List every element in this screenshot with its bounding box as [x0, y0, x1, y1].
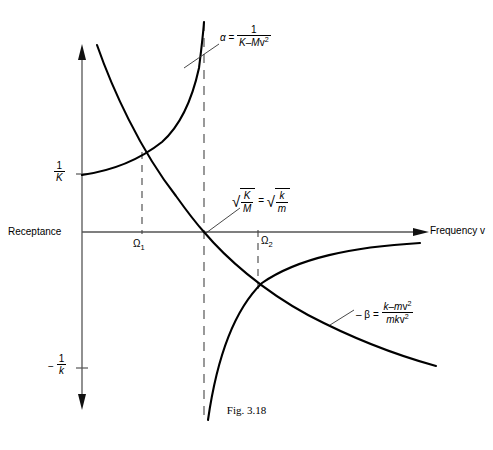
one-over-k-numerator: 1 [57, 353, 67, 366]
omega2-subscript: 2 [268, 240, 272, 249]
figure-root: α = 1 K–Mv2 √ K M = √ k m [0, 0, 493, 450]
figure-caption: Fig. 3.18 [0, 404, 493, 416]
beta-equals-sign: = [373, 309, 379, 320]
alpha-den-K: K [239, 37, 246, 48]
radical-sign-left-icon: √ [232, 194, 240, 209]
beta-fraction: k–mv2 mkv2 [382, 300, 414, 327]
y-axis-arrow-up [78, 44, 86, 60]
one-over-K-fraction: 1 K [54, 160, 65, 184]
x-marker-label-omega2: Ω2 [261, 235, 273, 249]
alpha-equals-sign: = [228, 32, 234, 43]
radical-sign-right-icon: √ [267, 194, 275, 209]
beta-leader-line [330, 310, 354, 325]
alpha-den-M: M [251, 37, 259, 48]
alpha-curve-branch-upper [82, 22, 204, 175]
asymptote-left-den: M [241, 203, 253, 215]
one-over-k-fraction: 1 k [57, 353, 67, 377]
radicand-right: k m [275, 188, 290, 214]
alpha-symbol: α [220, 32, 226, 43]
x-axis-label: Frequency v [430, 225, 485, 236]
one-over-K-denominator: K [54, 172, 65, 184]
natural-frequency-label: √ K M = √ k m [232, 188, 290, 214]
alpha-equation-label: α = 1 K–Mv2 [220, 26, 271, 51]
sqrt-K-over-M: √ K M [232, 188, 255, 214]
K-over-M-fraction: K M [241, 190, 253, 214]
beta-symbol: – β [356, 309, 370, 320]
asymptote-equals-sign: = [258, 195, 264, 206]
minus-sign: − [48, 361, 54, 372]
beta-den-exponent: 2 [405, 312, 409, 321]
beta-equation-label: – β = k–mv2 mkv2 [356, 302, 413, 329]
beta-den-mk: mk [386, 315, 399, 326]
radicand-left: K M [240, 188, 255, 214]
leader-lines-group [184, 44, 354, 325]
y-tick-label-minus-one-over-k: − 1 k [48, 355, 66, 379]
sqrt-k-over-m: √ k m [267, 188, 290, 214]
curves-group [82, 22, 436, 420]
one-over-K-numerator: 1 [54, 160, 65, 173]
alpha-curve-branch-lower [208, 243, 420, 420]
one-over-k-denominator: k [57, 365, 67, 377]
y-tick-label-one-over-K: 1 K [54, 162, 65, 186]
figure-plot-svg [0, 0, 493, 450]
y-axis-label: Receptance [8, 226, 61, 237]
k-over-m-fraction: k m [276, 190, 288, 214]
asymptote-left-num: K [241, 190, 253, 203]
alpha-denominator: K–Mv2 [237, 36, 271, 49]
asymptote-right-den: m [276, 203, 288, 215]
alpha-fraction: 1 K–Mv2 [237, 24, 271, 49]
beta-denominator: mkv2 [382, 313, 414, 326]
omega1-subscript: 1 [140, 243, 144, 252]
dashed-lines-group [142, 22, 258, 420]
asymptote-right-num: k [276, 190, 288, 203]
beta-numerator: k–mv2 [382, 300, 414, 314]
axes-group [76, 44, 429, 410]
x-marker-label-omega1: Ω1 [133, 238, 145, 252]
alpha-den-exponent: 2 [265, 35, 269, 44]
x-axis-arrow-right [413, 228, 429, 236]
beta-num-exponent: 2 [407, 299, 411, 308]
